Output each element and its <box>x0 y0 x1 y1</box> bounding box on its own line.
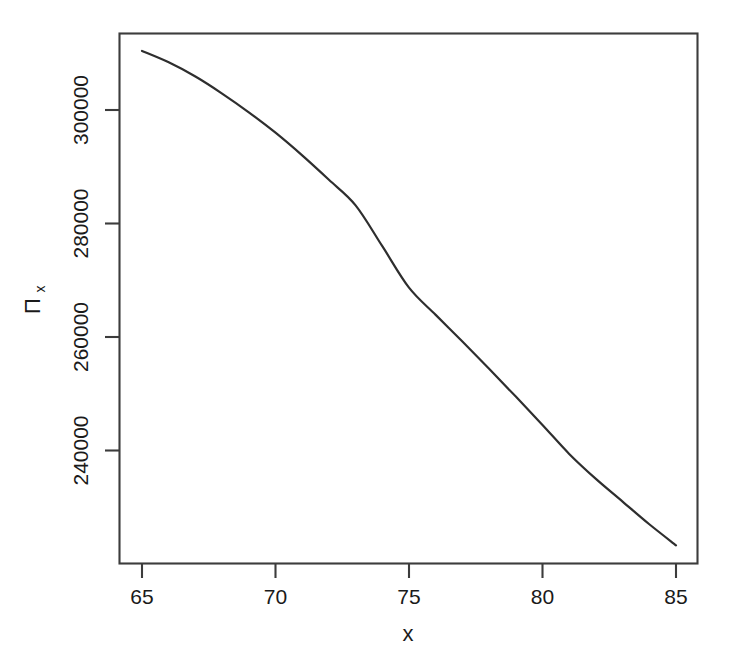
y-axis-tick-labels: 300000 280000 260000 240000 <box>69 75 92 486</box>
y-axis-title: Π x <box>20 286 48 314</box>
x-axis-ticks <box>142 564 676 578</box>
y-axis-ticks <box>105 110 119 451</box>
x-axis-tick-labels: 65 70 75 80 85 <box>130 585 687 608</box>
x-tick-label-2: 75 <box>397 585 420 608</box>
x-axis-title: x <box>403 621 414 646</box>
data-series-line <box>142 51 676 545</box>
line-chart: 65 70 75 80 85 300000 280000 260000 2400… <box>0 0 731 661</box>
y-tick-label-0: 240000 <box>69 415 92 485</box>
y-tick-label-2: 280000 <box>69 188 92 258</box>
x-tick-label-1: 70 <box>264 585 287 608</box>
x-tick-label-0: 65 <box>130 585 153 608</box>
y-tick-label-1: 260000 <box>69 302 92 372</box>
plot-frame-box <box>120 34 698 564</box>
x-tick-label-3: 80 <box>531 585 554 608</box>
y-axis-title-symbol: Π <box>20 298 45 314</box>
y-tick-label-3: 300000 <box>69 75 92 145</box>
y-axis-title-subscript: x <box>32 286 48 293</box>
chart-container: 65 70 75 80 85 300000 280000 260000 2400… <box>0 0 731 661</box>
x-tick-label-4: 85 <box>664 585 687 608</box>
